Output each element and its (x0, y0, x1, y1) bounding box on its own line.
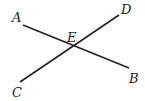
point-label-d: D (120, 2, 132, 17)
point-label-e: E (66, 30, 77, 45)
segment-cd (20, 15, 119, 82)
point-label-c: C (12, 85, 22, 100)
point-label-b: B (128, 71, 139, 86)
diagram-svg: A B C D E (0, 0, 145, 101)
point-label-a: A (11, 10, 21, 25)
geometry-diagram: A B C D E (0, 0, 145, 101)
